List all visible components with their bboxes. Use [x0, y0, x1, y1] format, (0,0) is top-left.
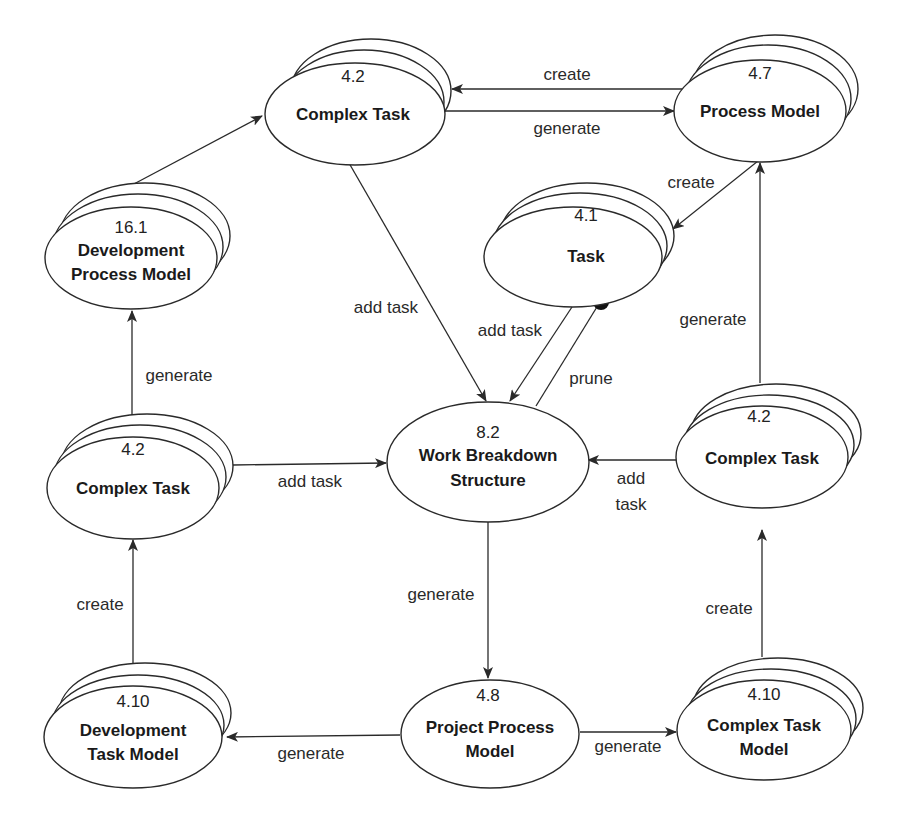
- node-work-breakdown-structure[interactable]: 8.2 Work Breakdown Structure: [387, 402, 589, 522]
- node-complex-task-top[interactable]: 4.2 Complex Task: [265, 39, 451, 165]
- node-development-process-model[interactable]: 16.1 Development Process Model: [45, 183, 230, 309]
- node-title: Complex Task: [705, 449, 820, 468]
- edge-labels: create generate create add task add task…: [76, 65, 752, 763]
- node-complex-task-right[interactable]: 4.2 Complex Task: [676, 384, 861, 508]
- edge-label: add: [617, 469, 645, 488]
- edge-label: generate: [277, 744, 344, 763]
- edge-label: create: [543, 65, 590, 84]
- node-id: 4.2: [341, 67, 365, 86]
- edge-label: add task: [478, 321, 543, 340]
- node-process-model[interactable]: 4.7 Process Model: [674, 35, 858, 162]
- node-id: 4.2: [121, 440, 145, 459]
- edge-label: generate: [679, 310, 746, 329]
- node-project-process-model[interactable]: 4.8 Project Process Model: [401, 680, 579, 788]
- node-title: Complex Task: [76, 479, 191, 498]
- edge-label: generate: [407, 585, 474, 604]
- node-title: Structure: [450, 471, 526, 490]
- node-title: Process Model: [71, 265, 191, 284]
- node-id: 4.7: [748, 64, 772, 83]
- node-id: 4.8: [476, 686, 500, 705]
- edge-label: add task: [354, 298, 419, 317]
- node-title: Work Breakdown: [419, 446, 558, 465]
- node-id: 4.10: [747, 685, 780, 704]
- edge-label: create: [705, 599, 752, 618]
- node-title: Task Model: [87, 745, 178, 764]
- node-id: 8.2: [476, 423, 500, 442]
- edge-label: generate: [145, 366, 212, 385]
- edge-ppm-generate-dtm[interactable]: [227, 735, 400, 737]
- node-title: Model: [739, 740, 788, 759]
- edge-label: add task: [278, 472, 343, 491]
- edge-dpm-to-ct-top[interactable]: [132, 116, 262, 185]
- node-title: Process Model: [700, 102, 820, 121]
- diagram-canvas: create generate create add task add task…: [0, 0, 908, 828]
- node-title: Complex Task: [707, 716, 822, 735]
- node-id: 4.2: [747, 407, 771, 426]
- edge-wbs-prune-task[interactable]: [536, 302, 600, 406]
- edge-label: generate: [533, 119, 600, 138]
- node-title: Project Process: [426, 718, 555, 737]
- node-id: 4.10: [116, 692, 149, 711]
- node-development-task-model[interactable]: 4.10 Development Task Model: [44, 663, 231, 788]
- node-title: Model: [465, 742, 514, 761]
- node-title: Development: [80, 721, 187, 740]
- edge-label: prune: [569, 369, 612, 388]
- edge-label: generate: [594, 737, 661, 756]
- node-title: Task: [567, 247, 605, 266]
- edge-label: task: [615, 495, 647, 514]
- node-title: Complex Task: [296, 105, 411, 124]
- node-complex-task-model[interactable]: 4.10 Complex Task Model: [677, 658, 863, 780]
- node-task[interactable]: 4.1 Task: [484, 183, 674, 307]
- edge-ct-top-addtask-wbs[interactable]: [349, 163, 486, 401]
- node-complex-task-left[interactable]: 4.2 Complex Task: [47, 414, 233, 539]
- edge-label: create: [76, 595, 123, 614]
- node-title: Development: [78, 241, 185, 260]
- edge-ct-left-addtask-wbs[interactable]: [233, 463, 386, 465]
- node-id: 4.1: [574, 206, 598, 225]
- edge-label: create: [667, 173, 714, 192]
- node-id: 16.1: [114, 218, 147, 237]
- edge-pm-create-task[interactable]: [673, 161, 758, 229]
